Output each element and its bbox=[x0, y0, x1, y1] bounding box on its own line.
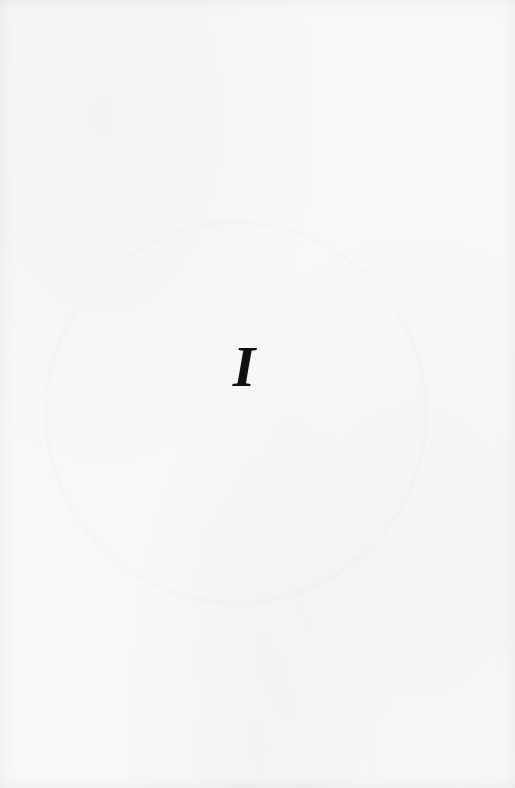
book-page: I bbox=[0, 0, 515, 788]
decorative-circle bbox=[44, 221, 428, 605]
chapter-number: I bbox=[222, 338, 266, 396]
